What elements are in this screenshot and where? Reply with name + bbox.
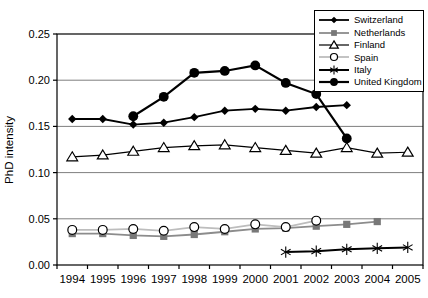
legend-marker-netherlands-icon: [318, 27, 350, 39]
x-tick-label: 1996: [120, 273, 146, 285]
y-tick-label: 0.15: [29, 120, 50, 132]
legend-item-finland: Finland: [318, 39, 422, 51]
series-finland: [67, 140, 413, 161]
legend-item-italy: Italy: [318, 64, 422, 76]
series-italy: [281, 242, 413, 258]
series-switzerland: [68, 101, 351, 129]
legend-item-switzerland: Switzerland: [318, 14, 422, 26]
y-tick-label: 0.20: [29, 74, 50, 86]
y-tick-label: 0.10: [29, 167, 50, 179]
y-axis: 0.000.050.100.150.200.25: [29, 28, 57, 271]
y-tick-label: 0.25: [29, 28, 50, 40]
legend-label-netherlands: Netherlands: [354, 28, 405, 38]
legend-label-spain: Spain: [354, 53, 378, 63]
legend-marker-united-kingdom-icon: [318, 76, 350, 88]
phd-intensity-figure: 0.000.050.100.150.200.251994199519961997…: [0, 0, 428, 298]
x-tick-label: 1999: [212, 273, 238, 285]
chart-legend: SwitzerlandNetherlandsFinlandSpainItalyU…: [314, 10, 424, 92]
legend-label-italy: Italy: [354, 65, 371, 75]
legend-item-netherlands: Netherlands: [318, 26, 422, 38]
gridlines: [57, 80, 423, 219]
x-axis: 1994199519961997199819992000200120022003…: [57, 265, 423, 285]
legend-item-united-kingdom: United Kingdom: [318, 76, 422, 88]
series-line-switzerland: [72, 105, 347, 124]
legend-label-finland: Finland: [354, 40, 385, 50]
legend-marker-italy-icon: [318, 64, 350, 76]
legend-marker-finland-icon: [318, 39, 350, 51]
x-tick-label: 2003: [334, 273, 360, 285]
legend-item-spain: Spain: [318, 51, 422, 63]
legend-marker-switzerland-icon: [318, 14, 350, 26]
x-tick-label: 1995: [90, 273, 116, 285]
legend-label-switzerland: Switzerland: [354, 15, 403, 25]
x-tick-label: 2001: [273, 273, 299, 285]
y-tick-label: 0.05: [29, 213, 50, 225]
y-tick-label: 0.00: [29, 259, 50, 271]
y-axis-title: PhD intensity: [3, 116, 15, 184]
x-tick-label: 2005: [395, 273, 421, 285]
legend-label-united-kingdom: United Kingdom: [354, 77, 422, 87]
x-tick-label: 1994: [59, 273, 85, 285]
legend-marker-spain-icon: [318, 51, 350, 63]
x-tick-label: 1997: [151, 273, 177, 285]
x-tick-label: 1998: [181, 273, 207, 285]
x-tick-label: 2002: [303, 273, 329, 285]
x-tick-label: 2000: [242, 273, 268, 285]
x-tick-label: 2004: [364, 273, 390, 285]
series-line-finland: [72, 145, 408, 157]
